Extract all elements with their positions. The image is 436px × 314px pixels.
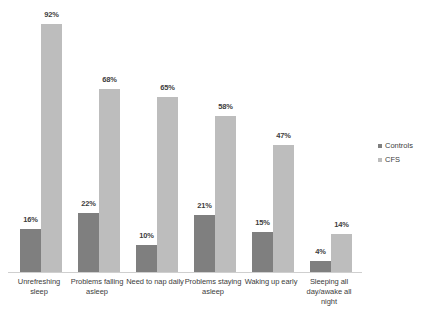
legend-label: CFS — [385, 155, 400, 164]
bar-controls[interactable]: 21% — [194, 215, 215, 272]
x-tick-label: Problems falling asleep — [66, 277, 128, 297]
bar-pair: 4% 14% — [302, 0, 360, 272]
bar-value-label: 15% — [255, 218, 270, 227]
bar-pair: 16% 92% — [12, 0, 70, 272]
bar-controls[interactable]: 15% — [252, 232, 273, 272]
x-tick-label: Waking up early — [240, 277, 302, 287]
bar-value-label: 58% — [218, 102, 233, 111]
bar-value-label: 22% — [81, 199, 96, 208]
bar-pair: 10% 65% — [128, 0, 186, 272]
bar-value-label: 65% — [160, 83, 175, 92]
x-axis-line — [8, 272, 362, 273]
bar-cfs[interactable]: 58% — [215, 116, 236, 272]
bar-pair: 21% 58% — [186, 0, 244, 272]
bar-group: 10% 65% — [128, 0, 186, 272]
x-tick-label: Sleeping all day/awake all night — [298, 277, 360, 307]
bar-controls[interactable]: 16% — [20, 229, 41, 272]
bar-group: 21% 58% — [186, 0, 244, 272]
bar-controls[interactable]: 22% — [78, 213, 99, 272]
bar-value-label: 10% — [139, 231, 154, 240]
bar-group: 22% 68% — [70, 0, 128, 272]
bar-cfs[interactable]: 65% — [157, 97, 178, 272]
x-tick-label: Problems staying asleep — [182, 277, 244, 297]
bar-cfs[interactable]: 14% — [331, 234, 352, 272]
bar-group: 4% 14% — [302, 0, 360, 272]
bar-pair: 22% 68% — [70, 0, 128, 272]
bar-value-label: 92% — [44, 10, 59, 19]
legend-swatch-icon — [378, 144, 382, 148]
bar-cfs[interactable]: 68% — [99, 89, 120, 272]
bar-group: 16% 92% — [12, 0, 70, 272]
bar-value-label: 21% — [197, 201, 212, 210]
bar-pair: 15% 47% — [244, 0, 302, 272]
x-tick-label: Need to nap daily — [124, 277, 186, 287]
bar-cfs[interactable]: 92% — [41, 24, 62, 272]
bar-controls[interactable]: 10% — [136, 245, 157, 272]
legend-swatch-icon — [378, 158, 382, 162]
bar-controls[interactable]: 4% — [310, 261, 331, 272]
x-tick-label: Unrefreshing sleep — [8, 277, 70, 297]
chart-legend: Controls CFS — [378, 141, 413, 169]
bar-chart: 16% 92% 22% 68% 10% — [0, 0, 436, 314]
bar-value-label: 4% — [315, 247, 326, 256]
bar-value-label: 16% — [23, 215, 38, 224]
legend-label: Controls — [385, 141, 413, 150]
bar-value-label: 68% — [102, 75, 117, 84]
legend-item-controls[interactable]: Controls — [378, 141, 413, 150]
bar-group: 15% 47% — [244, 0, 302, 272]
bar-value-label: 47% — [276, 131, 291, 140]
legend-item-cfs[interactable]: CFS — [378, 155, 413, 164]
bar-cfs[interactable]: 47% — [273, 145, 294, 272]
bar-value-label: 14% — [334, 220, 349, 229]
plot-area: 16% 92% 22% 68% 10% — [8, 0, 362, 273]
